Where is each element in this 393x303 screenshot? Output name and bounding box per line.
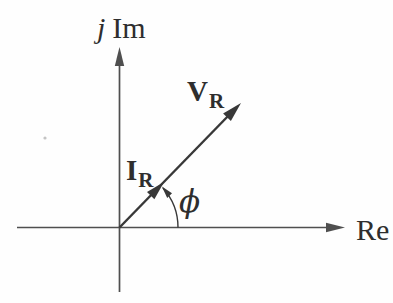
im-axis-im-label: Im bbox=[112, 11, 145, 44]
im-axis-arrowhead-icon bbox=[115, 47, 124, 66]
current-label: IR bbox=[126, 154, 154, 192]
phasor-figure: jIm Re VR IR ϕ bbox=[0, 0, 393, 303]
im-axis-j-label: j bbox=[93, 11, 105, 44]
current-subscript: R bbox=[138, 168, 154, 192]
voltage-symbol: V bbox=[187, 75, 208, 107]
phase-angle-arc-arrowhead-icon bbox=[162, 187, 172, 198]
im-axis-label: jIm bbox=[93, 11, 146, 44]
scan-speck bbox=[43, 136, 46, 139]
re-axis-label: Re bbox=[356, 213, 389, 246]
phasor-diagram: jIm Re VR IR ϕ bbox=[0, 0, 393, 303]
re-axis-arrowhead-icon bbox=[326, 223, 345, 232]
voltage-subscript: R bbox=[209, 89, 225, 113]
phase-angle-label: ϕ bbox=[179, 183, 200, 219]
voltage-label: VR bbox=[187, 75, 225, 113]
current-symbol: I bbox=[126, 154, 137, 186]
